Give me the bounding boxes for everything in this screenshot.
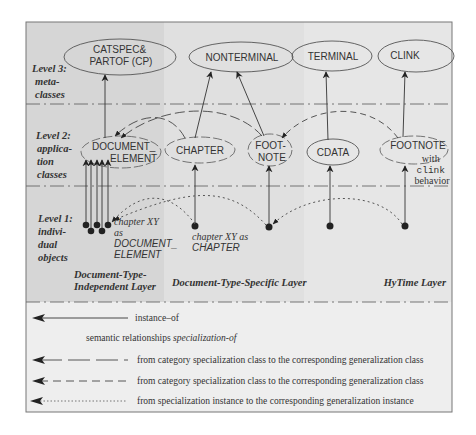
legend-heading: semantic relationships specialization-of (86, 333, 238, 343)
legend-dotted-label: from specialization instance to the corr… (137, 396, 414, 406)
object-dot (105, 222, 112, 229)
metaclass-terminal-text: TERMINAL (308, 51, 359, 62)
layer-label-hytime: HyTime Layer (383, 277, 447, 288)
legend-instance-of-label: instance–of (135, 313, 180, 323)
legend-long-dash-label: from category specialization class to th… (137, 355, 424, 365)
class-cdata-text: CDATA (317, 147, 350, 158)
metaclass-nonterminal-text: NONTERMINAL (206, 52, 279, 63)
metaclass-catspec-text: CATSPEC& PARTOF (CP) (90, 44, 153, 67)
diagram-panel (26, 22, 452, 412)
object-dot (88, 228, 95, 235)
metaclass-clink-text: CLINK (390, 50, 420, 61)
legend-dash-label: from category specialization class to th… (137, 376, 424, 386)
class-foot-note-text: FOOT- NOTE (255, 140, 288, 163)
class-chapter-text: CHAPTER (176, 145, 224, 156)
object-dot (99, 228, 106, 235)
object-dot (94, 222, 101, 229)
object-dot-cdata (327, 223, 334, 230)
object-dot-hytime-footnote (402, 223, 409, 230)
class-footnote-text: FOOTNOTE (390, 140, 446, 151)
diagram: Level 3: meta- classes Level 2: applica-… (0, 0, 476, 435)
layer-label-independent: Document-Type- Independent Layer (73, 269, 157, 292)
object-dot-footnote (266, 224, 273, 231)
layer-label-specific: Document-Type-Specific Layer (171, 277, 308, 288)
object-dot (83, 222, 90, 229)
